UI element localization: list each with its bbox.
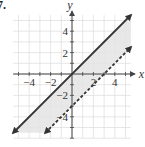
x-tick-label: 2	[91, 76, 97, 88]
y-tick-label: 2	[63, 47, 69, 59]
y-tick-label: −4	[56, 111, 68, 123]
y-tick-label: 4	[63, 25, 69, 37]
x-axis-label: x	[138, 67, 145, 81]
x-tick-label: 4	[112, 76, 118, 88]
y-tick-label: −2	[56, 89, 68, 101]
x-tick-label: −4	[23, 76, 35, 88]
y-axis-label: y	[66, 0, 73, 12]
inequality-graph: −4−22442−2−4xy	[0, 0, 145, 147]
x-tick-label: −2	[45, 76, 57, 88]
